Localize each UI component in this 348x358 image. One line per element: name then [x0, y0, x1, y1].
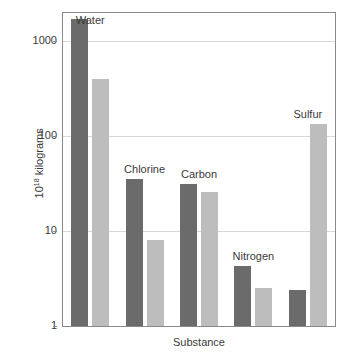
- bar-nitrogen-light: [255, 288, 272, 326]
- gridline-1000: [63, 41, 335, 42]
- bar-chart: 1018 kilograms 1000100101 WaterChlorineC…: [0, 0, 348, 358]
- group-label-water: Water: [59, 15, 121, 26]
- bar-carbon-light: [201, 192, 218, 326]
- y-axis-ticks: 1000100101: [0, 0, 57, 358]
- group-label-carbon: Carbon: [168, 169, 230, 180]
- group-label-sulfur: Sulfur: [277, 109, 339, 120]
- y-tick-mark-1000: [53, 41, 57, 42]
- y-tick-mark-10: [53, 231, 57, 232]
- y-tick-mark-1: [53, 326, 57, 327]
- bar-chlorine-light: [147, 240, 164, 326]
- group-label-chlorine: Chlorine: [114, 164, 176, 175]
- plot-area: WaterChlorineCarbonNitrogenSulfur: [62, 12, 336, 327]
- bar-carbon-dark: [180, 184, 197, 326]
- x-axis-title: Substance: [62, 336, 336, 348]
- bar-water-dark: [71, 19, 88, 326]
- bar-nitrogen-dark: [234, 266, 251, 326]
- bar-water-light: [92, 79, 109, 326]
- bar-chlorine-dark: [126, 179, 143, 326]
- bar-sulfur-dark: [289, 290, 306, 326]
- y-tick-mark-100: [53, 136, 57, 137]
- bar-sulfur-light: [310, 124, 327, 326]
- group-label-nitrogen: Nitrogen: [222, 251, 284, 262]
